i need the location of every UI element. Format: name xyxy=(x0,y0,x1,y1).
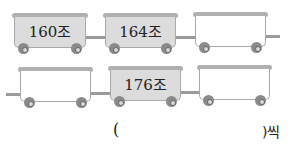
train-car-1: 160조 xyxy=(12,13,88,54)
wheel-icon xyxy=(255,95,266,106)
wheel-icon xyxy=(109,43,120,54)
answer-open-paren: ( xyxy=(113,120,119,139)
wheel-icon xyxy=(18,43,29,54)
answer-unit-suffix: )씩 xyxy=(262,121,280,141)
train-car-3 xyxy=(193,12,268,53)
wheel-icon xyxy=(199,42,210,53)
car-label: 160조 xyxy=(12,20,88,41)
wheel-icon xyxy=(161,43,172,54)
car-label: 176조 xyxy=(108,73,183,94)
wheel-icon xyxy=(24,97,35,108)
train-car-2: 164조 xyxy=(103,13,178,54)
train-car-6 xyxy=(197,65,272,106)
train-car-4 xyxy=(18,67,93,108)
train-car-5: 176조 xyxy=(108,66,183,107)
wheel-icon xyxy=(76,97,87,108)
wheel-icon xyxy=(203,95,214,106)
wheel-icon xyxy=(251,42,262,53)
wheel-icon xyxy=(166,96,177,107)
wheel-icon xyxy=(71,43,82,54)
answer-blank[interactable] xyxy=(125,120,259,140)
car-label: 164조 xyxy=(103,20,178,41)
wheel-icon xyxy=(114,96,125,107)
